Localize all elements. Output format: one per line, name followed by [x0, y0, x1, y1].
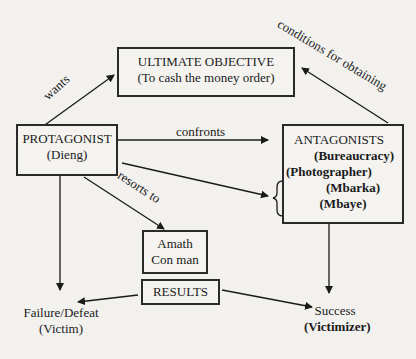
success-subtitle: (Victimizer)	[300, 319, 370, 335]
objective-subtitle: (To cash the money order)	[119, 70, 293, 86]
edge-label-confronts: confronts	[176, 124, 225, 139]
results-title: RESULTS	[143, 284, 218, 300]
protagonist-title: PROTAGONIST	[18, 131, 116, 147]
helper-name: Amath	[144, 236, 206, 252]
antagonist-mbaye: (Mbaye)	[284, 196, 402, 212]
antagonists-box: ANTAGONISTS (Bureaucracy) (Photographer)…	[282, 124, 404, 224]
ultimate-objective-box: ULTIMATE OBJECTIVE (To cash the money or…	[117, 47, 295, 97]
objective-title: ULTIMATE OBJECTIVE	[119, 54, 293, 70]
antagonist-bureaucracy: (Bureaucracy)	[284, 148, 402, 164]
failure-node: Failure/Defeat (Victim)	[20, 305, 102, 337]
success-title: Success	[300, 303, 370, 319]
failure-subtitle: (Victim)	[20, 321, 102, 337]
protagonist-box: PROTAGONIST (Dieng)	[16, 124, 118, 176]
results-box: RESULTS	[141, 279, 220, 305]
success-node: Success (Victimizer)	[300, 303, 370, 335]
protagonist-subtitle: (Dieng)	[18, 147, 116, 163]
failure-title: Failure/Defeat	[20, 305, 102, 321]
helper-box: Amath Con man	[142, 230, 208, 274]
antagonists-title: ANTAGONISTS	[284, 132, 402, 148]
helper-role: Con man	[144, 252, 206, 268]
arrow-results-success	[222, 290, 312, 307]
antagonist-photographer: (Photographer)	[284, 164, 402, 180]
arrow-results-failure	[78, 295, 138, 302]
antagonist-mbarka: (Mbarka)	[284, 180, 402, 196]
